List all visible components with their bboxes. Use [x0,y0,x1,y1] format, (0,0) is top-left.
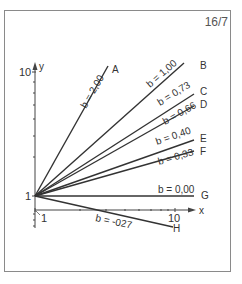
label-e: b = 0,40 [154,124,192,146]
letter-a: A [112,64,119,75]
y-tick-1: 1 [25,190,31,202]
line-b [35,63,184,196]
letter-c: C [200,86,207,97]
y-axis [32,62,38,228]
letter-b: B [200,60,207,71]
label-b: b = 1,00 [144,57,179,89]
letter-d: D [200,99,207,110]
x-tick-1: 1 [41,212,47,224]
label-a: b = 2,00 [78,73,106,110]
letter-g: G [201,190,209,201]
y-axis-label: y [39,61,44,72]
label-h: b = -027 [95,212,134,231]
y-tick-10: 10 [19,66,31,78]
x-axis-label: x [199,205,204,216]
letter-h: H [173,223,180,234]
curves [35,63,194,227]
label-g: b = 0,00 [158,184,195,195]
line-c [35,94,194,196]
power-function-chart: 10 y 1 x 1 10 b = 2,00 b = 1,00 b = 0,73… [0,0,242,284]
letter-f: F [200,146,206,157]
letter-e: E [200,133,207,144]
label-f: b = 0,33 [157,146,195,167]
